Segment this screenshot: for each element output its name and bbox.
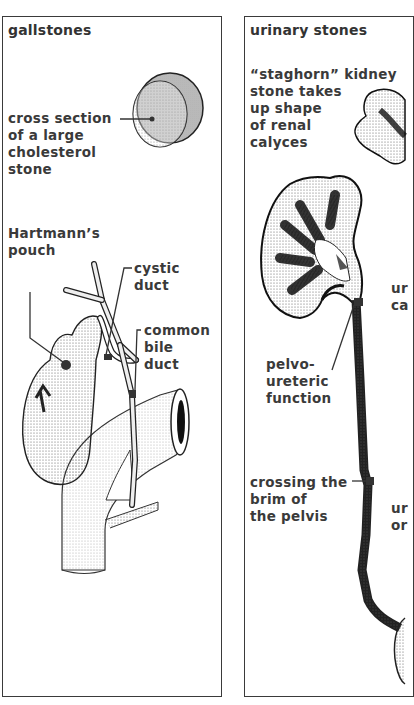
cross-section-label: cross section of a large cholesterol sto… xyxy=(8,110,112,178)
ureter-icon xyxy=(354,298,400,628)
common-bile-duct-label: common bile duct xyxy=(144,322,210,373)
cystic-duct-label: cystic duct xyxy=(134,260,180,294)
clipped-label-1: ur ca xyxy=(391,280,409,314)
clipped-label-2: ur or xyxy=(391,500,408,534)
crossing-brim-label: crossing the brim of the pelvis xyxy=(250,474,347,525)
staghorn-label: “staghorn” kidney stone takes up shape o… xyxy=(250,66,397,151)
urinary-stones-title: urinary stones xyxy=(250,22,367,38)
kidney-icon xyxy=(261,176,362,318)
cholesterol-stone-icon xyxy=(133,73,203,147)
pelvo-ureteric-label: pelvo- ureteric function xyxy=(266,356,331,407)
hartmanns-pouch-label: Hartmann’s pouch xyxy=(8,225,100,259)
